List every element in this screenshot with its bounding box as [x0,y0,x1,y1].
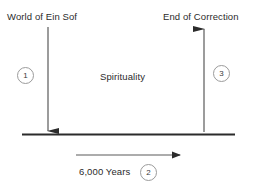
step-badge-2: 2 [140,164,157,181]
diagram-vector-layer [0,0,257,190]
spirituality-timeline-diagram: World of Ein Sof End of Correction Spiri… [0,0,257,190]
end-label: End of Correction [163,12,239,22]
step-badge-1: 1 [17,67,34,84]
step-badge-3: 3 [213,65,230,82]
duration-label: 6,000 Years [79,167,130,177]
region-label-spirituality: Spirituality [100,72,145,82]
start-label: World of Ein Sof [7,12,77,22]
